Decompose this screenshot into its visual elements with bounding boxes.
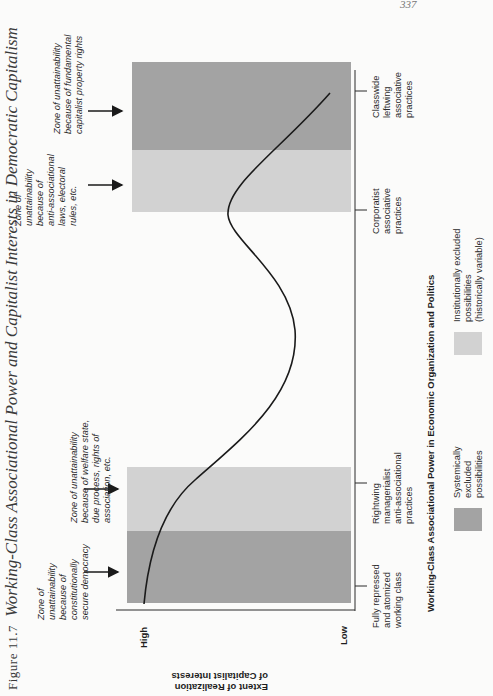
svg-text:Zone of unattainabilitybecause: Zone of unattainabilitybecause of welfar… bbox=[69, 420, 112, 524]
zone-annotation-4: Zone of unattainabilitybecause of fundam… bbox=[52, 34, 84, 135]
legend-swatch-institutional bbox=[454, 332, 482, 355]
legend-label-systemic: Systemicallyexcludedpossibilities bbox=[452, 446, 484, 498]
svg-text:Working-Class Associational Po: Working-Class Associational Power in Eco… bbox=[425, 275, 436, 612]
svg-text:Low: Low bbox=[338, 625, 349, 645]
x-label-rightwing: Rightwingmanagerialistanti-associational… bbox=[371, 452, 414, 524]
figure-canvas: 337 Figure 11.7 Working-Class Associatio… bbox=[0, 0, 493, 696]
svg-text:Corporatistassociativepractice: Corporatistassociativepractices bbox=[371, 188, 403, 234]
figure-title: Figure 11.7 Working-Class Associational … bbox=[2, 27, 21, 690]
svg-text:Systemicallyexcludedpossibilit: Systemicallyexcludedpossibilities bbox=[452, 446, 484, 498]
x-label-corporatist: Corporatistassociativepractices bbox=[371, 188, 403, 234]
svg-text:Zone ofunattainabilitybecause: Zone ofunattainabilitybecause ofanti-ass… bbox=[13, 153, 78, 227]
zone-annotation-3: Zone ofunattainabilitybecause ofanti-ass… bbox=[13, 153, 78, 227]
zone-institutional-left bbox=[127, 467, 351, 531]
y-label-high: High bbox=[138, 627, 149, 648]
x-label-fully-repressed: Fully repressedand atomizedworking class bbox=[371, 564, 403, 629]
svg-text:Zone of unattainabilitybecause: Zone of unattainabilitybecause of fundam… bbox=[52, 34, 84, 135]
x-axis-title: Working-Class Associational Power in Eco… bbox=[425, 275, 436, 612]
page-number: 337 bbox=[399, 0, 417, 10]
svg-text:Classwideleftwingassociativepr: Classwideleftwingassociativepractices bbox=[371, 72, 414, 118]
zone-systemic-left bbox=[127, 531, 351, 603]
svg-text:Fully repressedand atomizedwor: Fully repressedand atomizedworking class bbox=[371, 564, 403, 629]
svg-text:Figure 11.7 Working-Clas: Figure 11.7 Working-Class Associational … bbox=[2, 27, 21, 690]
figure-label: Figure 11.7 bbox=[5, 625, 20, 690]
book-page: 337 Figure 11.7 Working-Class Associatio… bbox=[0, 0, 493, 696]
svg-text:Extent of Realizationof Capita: Extent of Realizationof Capitalist Inter… bbox=[171, 671, 268, 693]
figure-title-text: Working-Class Associational Power and Ca… bbox=[2, 27, 21, 617]
zone-institutional-right bbox=[132, 150, 351, 212]
y-axis-title: Extent of Realizationof Capitalist Inter… bbox=[171, 671, 268, 693]
svg-text:Institutionally excludedpossib: Institutionally excludedpossibilities(hi… bbox=[452, 228, 484, 322]
svg-text:Zone ofunattainabilitybecause: Zone ofunattainabilitybecause ofconstitu… bbox=[36, 543, 90, 621]
legend-label-institutional: Institutionally excludedpossibilities(hi… bbox=[452, 228, 484, 322]
legend-swatch-systemic bbox=[454, 508, 482, 531]
zone-annotation-1: Zone ofunattainabilitybecause ofconstitu… bbox=[36, 543, 90, 621]
y-label-low: Low bbox=[338, 625, 349, 645]
svg-text:Rightwingmanagerialistanti-ass: Rightwingmanagerialistanti-associational… bbox=[371, 452, 414, 524]
x-label-classwide: Classwideleftwingassociativepractices bbox=[371, 72, 414, 118]
zone-annotation-2: Zone of unattainabilitybecause of welfar… bbox=[69, 420, 112, 524]
svg-text:High: High bbox=[138, 627, 149, 648]
